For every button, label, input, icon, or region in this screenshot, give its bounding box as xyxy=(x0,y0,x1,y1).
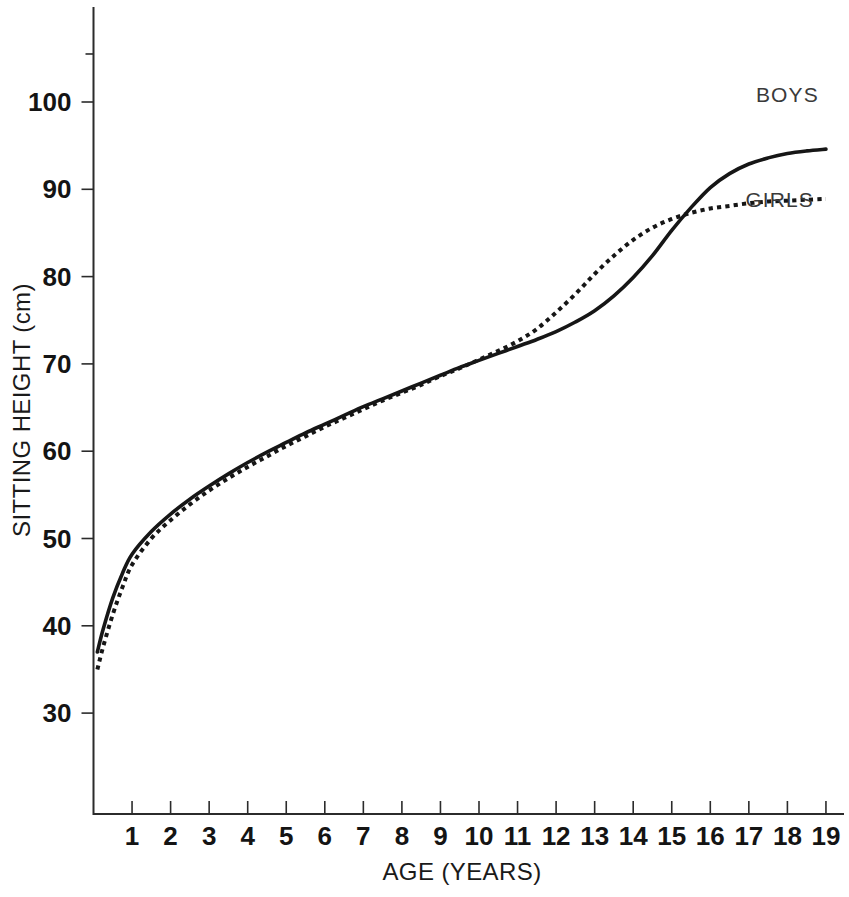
x-axis-tick-label: 10 xyxy=(465,821,494,851)
x-axis-tick-label: 1 xyxy=(125,821,139,851)
series-label-boys: BOYS xyxy=(756,83,819,106)
x-axis-title: AGE (YEARS) xyxy=(382,858,541,885)
x-axis-tick-label: 3 xyxy=(202,821,216,851)
y-axis-tick-label: 70 xyxy=(43,349,72,379)
x-axis-ticks xyxy=(132,801,826,814)
x-axis-tick-label: 16 xyxy=(696,821,725,851)
x-axis-tick-label: 15 xyxy=(657,821,686,851)
y-axis-tick-label: 80 xyxy=(43,262,72,292)
y-axis-tick-label: 40 xyxy=(43,611,72,641)
y-axis-tick-label: 30 xyxy=(43,698,72,728)
axes xyxy=(94,8,844,814)
x-axis-tick-labels: 12345678910111213141516171819 xyxy=(125,821,841,851)
x-axis-tick-label: 7 xyxy=(356,821,370,851)
x-axis-tick-label: 9 xyxy=(433,821,447,851)
data-series xyxy=(97,149,826,669)
x-axis-tick-label: 11 xyxy=(504,821,532,851)
sitting-height-growth-chart: 30405060708090100 1234567891011121314151… xyxy=(0,0,849,897)
x-axis-tick-label: 6 xyxy=(318,821,332,851)
x-axis-tick-label: 17 xyxy=(734,821,763,851)
x-axis-tick-label: 13 xyxy=(580,821,609,851)
x-axis-tick-label: 2 xyxy=(163,821,177,851)
y-axis-ticks xyxy=(82,54,94,713)
x-axis-tick-label: 4 xyxy=(240,821,255,851)
series-inline-labels: BOYSGIRLS xyxy=(745,83,818,211)
x-axis-tick-label: 19 xyxy=(811,821,840,851)
series-label-girls: GIRLS xyxy=(745,188,814,211)
x-axis-tick-label: 12 xyxy=(542,821,571,851)
y-axis-tick-label: 100 xyxy=(28,87,71,117)
y-axis-tick-label: 60 xyxy=(43,436,72,466)
x-axis-tick-label: 18 xyxy=(773,821,802,851)
x-axis-tick-label: 8 xyxy=(395,821,409,851)
y-axis-tick-label: 50 xyxy=(43,524,72,554)
series-line-girls xyxy=(97,199,826,670)
x-axis-tick-label: 5 xyxy=(279,821,293,851)
series-line-boys xyxy=(97,149,826,652)
x-axis-tick-label: 14 xyxy=(619,821,648,851)
axis-lines xyxy=(94,8,844,814)
chart-canvas: 30405060708090100 1234567891011121314151… xyxy=(0,0,849,897)
y-axis-title: SITTING HEIGHT (cm) xyxy=(8,283,35,537)
y-axis-tick-label: 90 xyxy=(43,174,72,204)
